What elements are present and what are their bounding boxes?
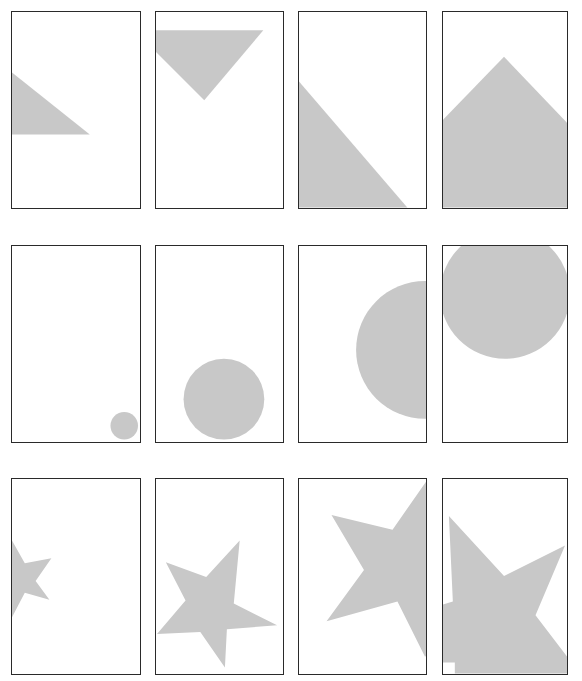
triangle-shape xyxy=(299,12,426,208)
panel-triangle-2 xyxy=(155,11,284,209)
panel-star-3 xyxy=(298,478,427,675)
panel-triangle-4 xyxy=(442,11,568,209)
circle-shape xyxy=(443,246,567,442)
panel-circle-4 xyxy=(442,245,568,443)
panel-star-4 xyxy=(442,478,568,675)
circle-shape xyxy=(12,246,140,442)
panel-star-2 xyxy=(155,478,284,675)
panel-circle-1 xyxy=(11,245,141,443)
triangle-shape xyxy=(443,12,567,208)
triangle-shape xyxy=(156,12,283,208)
circle-shape xyxy=(299,246,426,442)
triangle-shape xyxy=(12,12,140,208)
circle-shape xyxy=(156,246,283,442)
panel-triangle-1 xyxy=(11,11,141,209)
star-shape xyxy=(443,479,567,674)
panel-circle-3 xyxy=(298,245,427,443)
star-shape xyxy=(299,479,426,674)
panel-circle-2 xyxy=(155,245,284,443)
panel-star-1 xyxy=(11,478,141,675)
star-shape xyxy=(12,479,140,674)
star-shape xyxy=(156,479,283,674)
panel-triangle-3 xyxy=(298,11,427,209)
